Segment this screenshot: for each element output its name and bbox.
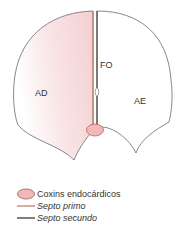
left-atrium-region bbox=[97, 11, 172, 153]
foramen-ovale-shape bbox=[95, 88, 99, 96]
line-swatch-icon bbox=[16, 212, 36, 224]
ellipse-swatch-icon bbox=[16, 188, 36, 200]
right-atrium-region bbox=[14, 11, 93, 160]
heart-atria-diagram bbox=[0, 0, 178, 175]
endocardial-cushion bbox=[87, 124, 104, 136]
label-ad: AD bbox=[35, 88, 48, 98]
line-swatch-icon bbox=[16, 200, 36, 212]
label-fo: FO bbox=[100, 60, 113, 70]
legend-label: Septo secundo bbox=[37, 212, 97, 224]
legend-label: Septo primo bbox=[37, 200, 86, 212]
label-ae: AE bbox=[134, 96, 146, 106]
legend-label: Coxins endocárdicos bbox=[37, 188, 121, 200]
